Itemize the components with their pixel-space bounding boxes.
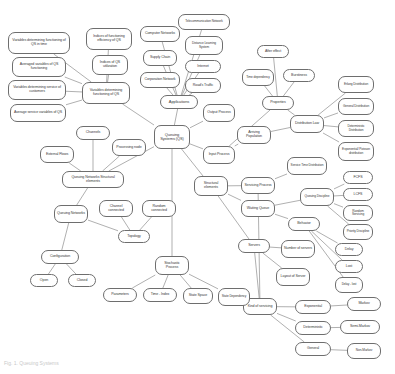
node-arriving_pop[interactable]: Arriving Population [237,126,271,144]
edge-stoch_proc-to-parameters [132,275,155,288]
edge-qs-to-output_proc [190,121,203,128]
node-state_space[interactable]: State Space [183,288,213,304]
node-label: Semi-Markov [350,325,370,329]
edge-configuration-to-open [48,264,55,274]
node-label: Closed [77,279,88,283]
node-markov[interactable]: Markov [347,297,381,311]
node-ext_flows[interactable]: External Flows [40,146,74,163]
node-non_markov[interactable]: Non-Markov [347,343,381,359]
node-label: Applications [169,100,189,104]
node-closed[interactable]: Closed [68,274,96,287]
edge-after_effect-to-properties [274,58,278,96]
node-waiting_queue[interactable]: Waiting Queue [241,200,275,217]
edge-ext_flows-to-qn_struct [69,163,81,171]
node-vars_time[interactable]: Variables determining functioning of QS … [8,32,70,54]
node-avg_service[interactable]: Average service variables of QS [10,104,66,122]
node-roads[interactable]: Road's Traffic [185,78,221,93]
node-queue_disc[interactable]: Queuing Discipline [300,188,334,206]
node-avg_vars[interactable]: Averaged variables of QS functioning [12,57,66,77]
node-servers[interactable]: Servers [238,239,270,253]
node-dls[interactable]: Distance Learning System [185,36,223,55]
node-supply[interactable]: Supply Chain [143,50,177,66]
node-burstiness[interactable]: Burstiness [283,69,315,82]
node-semi_markov[interactable]: Semi-Markov [340,320,380,334]
node-label: Queuing Networks Structural elements [65,176,121,183]
node-priority_disc[interactable]: Priority Discipline [343,224,373,240]
node-label: Time - Index [151,293,170,297]
node-struct_el[interactable]: Structural elements [194,176,228,196]
edge-indices_util-to-vars_det [108,75,109,82]
node-time_index[interactable]: Time - Index [143,288,177,302]
node-delay_lost[interactable]: Delay - lost [335,277,363,293]
edge-servers-to-num_servers [270,247,281,248]
node-state_dep[interactable]: State Dependency [218,288,250,306]
node-vars_service[interactable]: Variables determining service of custome… [8,80,66,100]
node-determ_d[interactable]: Deterministic Distribution [338,120,374,137]
edge-stoch_proc-to-time_index [163,275,168,288]
node-general_k[interactable]: General [295,342,331,356]
node-servicing_proc[interactable]: Servicing Process [241,177,275,194]
node-stoch_proc[interactable]: Stochastic Process [155,256,189,275]
node-channels[interactable]: Channels [76,126,110,140]
node-time_dep[interactable]: Time dependency [242,69,274,86]
node-label: Priority Discipline [347,230,370,233]
node-deterministic[interactable]: Deterministic [295,321,331,335]
edge-general_k-to-non_markov [331,350,347,351]
node-label: Road's Traffic [193,84,213,88]
node-indices_util[interactable]: Indices of QS utilization [92,55,128,75]
node-telecom[interactable]: Telecommunication Network [178,14,230,30]
edge-dist_law-to-exp_poisson [323,133,339,142]
node-queuing_nets[interactable]: Queuing Networks [54,205,88,223]
node-label: Time dependency [246,76,270,79]
edge-proc_node-to-qn_struct [103,156,120,171]
node-exponential[interactable]: Exponential [295,300,331,314]
node-qn_struct[interactable]: Queuing Networks Structural elements [62,171,124,188]
edge-servicing_proc-to-service_time [275,174,287,179]
node-properties[interactable]: Properties [262,96,294,110]
node-input_proc[interactable]: Input Process [203,146,235,164]
node-label: Queuing Discipline [305,195,330,198]
node-internet[interactable]: Internet [185,60,221,73]
node-general_d[interactable]: General Distribution [338,98,374,115]
node-service_time[interactable]: Service Time Distribution [287,157,327,175]
node-layout_server[interactable]: Layout of Server [276,268,310,286]
node-erlang[interactable]: Erlang Distribution [338,76,374,93]
node-channel_conn[interactable]: Channel connected [99,200,133,217]
node-num_servers[interactable]: Number of servers [281,240,315,258]
node-delay[interactable]: Delay [335,243,363,256]
node-topology[interactable]: Topology [118,230,150,243]
node-open[interactable]: Open [30,274,58,287]
edge-avg_vars-to-vars_det [65,77,82,84]
node-label: Markov [358,302,369,306]
node-label: Exponential [304,305,322,309]
node-random_serv[interactable]: Random Servicing [343,205,373,221]
node-indices_eff[interactable]: Indices of functioning efficiency of QS [86,28,132,50]
node-configuration[interactable]: Configuration [41,250,79,264]
node-corp_net[interactable]: Corporation Network [140,72,180,88]
node-behavior[interactable]: Behavior [288,217,320,231]
node-output_proc[interactable]: Output Process [203,104,235,122]
node-proc_node[interactable]: Processing node [112,139,146,156]
node-label: Deterministic Distribution [341,125,371,132]
node-dist_law[interactable]: Distribution Law [290,115,324,133]
node-apps[interactable]: Applications [160,95,198,109]
node-lcfs[interactable]: LCFS [343,188,373,201]
node-label: After effect [265,50,281,54]
node-label: Waiting Queue [247,207,269,211]
node-label: Number of servers [284,247,312,251]
node-exp_poisson[interactable]: Exponential/ Poisson distribution [338,142,374,161]
node-after_effect[interactable]: After effect [257,45,289,58]
node-fcfs[interactable]: FCFS [343,171,373,184]
node-qs[interactable]: Queuing Systems (QS) [154,125,190,149]
edge-avg_service-to-vars_det [66,100,82,105]
node-label: Average service variables of QS [14,111,62,115]
edge-kind_serv-to-deterministic [277,313,296,321]
node-comp_net[interactable]: Computer Networks [140,26,180,42]
edge-queue_disc-to-lcfs [334,195,343,196]
node-vars_det[interactable]: Variables determining functioning of QS [82,82,130,104]
node-lost[interactable]: Lost [335,260,363,273]
edge-queuing_nets-to-configuration [62,223,69,250]
node-random_conn[interactable]: Random connected [142,200,176,217]
node-label: Channels [86,131,100,135]
node-parameters[interactable]: Parameters [103,288,137,302]
